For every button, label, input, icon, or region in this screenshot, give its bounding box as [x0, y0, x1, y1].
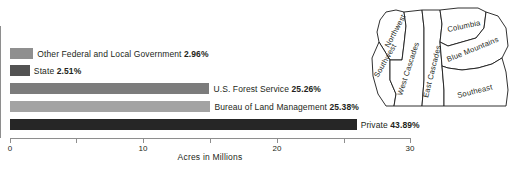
bar-other-federal-and-local-government [10, 48, 33, 59]
bar-label-private: Private 43.89% [361, 120, 420, 130]
bar-percent-bureau-of-land-management: 25.38% [329, 102, 358, 112]
x-tick-0 [10, 138, 11, 143]
bar-row-us-forest-service: U.S. Forest Service 25.26% [10, 83, 321, 94]
x-tick-minor-25 [344, 138, 345, 143]
x-tick-10 [143, 138, 144, 143]
oregon-regions-map: Northwest Southwest West Cascades East C… [366, 2, 514, 120]
bar-percent-private: 43.89% [390, 120, 419, 130]
bar-private [10, 119, 357, 130]
x-tick-minor-15 [210, 138, 211, 143]
x-tick-20 [277, 138, 278, 143]
x-axis-title: Acres in Millions [0, 152, 420, 162]
bar-category-state: State [34, 66, 54, 76]
bar-row-private: Private 43.89% [10, 119, 420, 130]
bar-row-state: State 2.51% [10, 65, 81, 76]
bar-category-bureau-of-land-management: Bureau of Land Management [214, 102, 327, 112]
bar-label-other-federal-and-local-government: Other Federal and Local Government 2.96% [37, 49, 208, 59]
bar-us-forest-service [10, 83, 209, 94]
bar-percent-state: 2.51% [57, 66, 82, 76]
x-tick-minor-5 [76, 138, 77, 143]
bar-percent-other-federal-and-local-government: 2.96% [184, 49, 209, 59]
y-axis-line [0, 26, 1, 138]
oregon-land-ownership-chart: 0 10 20 30 Acres in Millions Other Feder… [0, 0, 515, 178]
bar-label-us-forest-service: U.S. Forest Service 25.26% [213, 84, 321, 94]
bar-category-us-forest-service: U.S. Forest Service [213, 84, 289, 94]
bar-bureau-of-land-management [10, 101, 210, 112]
bar-label-state: State 2.51% [34, 66, 81, 76]
bar-category-private: Private [361, 120, 388, 130]
bar-row-bureau-of-land-management: Bureau of Land Management 25.38% [10, 101, 359, 112]
bar-state [10, 65, 30, 76]
x-tick-30 [410, 138, 411, 143]
bar-row-other-federal-and-local-government: Other Federal and Local Government 2.96% [10, 48, 209, 59]
bar-category-other-federal-and-local-government: Other Federal and Local Government [37, 49, 181, 59]
bar-percent-us-forest-service: 25.26% [292, 84, 321, 94]
bar-label-bureau-of-land-management: Bureau of Land Management 25.38% [214, 102, 359, 112]
